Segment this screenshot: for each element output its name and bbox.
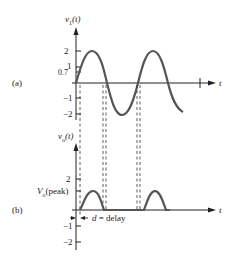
delay-marker	[70, 216, 88, 220]
y-arg: (t)	[65, 131, 74, 141]
tick-b-2: 2	[66, 174, 71, 184]
tick-a-neg1: −1	[63, 93, 73, 103]
panel-a-label: (a)	[12, 78, 22, 88]
panel-b-x-axis-label: t	[219, 205, 222, 215]
tick-b-neg1: −1	[63, 221, 73, 231]
tick-a-0.7: 0.7	[58, 68, 68, 78]
tick-b-neg2: −2	[63, 237, 73, 247]
panel-a-axes	[72, 27, 216, 120]
delay-label: d = delay	[92, 213, 126, 223]
tick-a-2: 2	[64, 46, 69, 56]
panel-a-y-axis-label: v1(t)	[65, 14, 81, 28]
tick-a-neg2: −2	[63, 109, 73, 119]
panel-b-label: (b)	[12, 205, 23, 215]
panel-b-axes	[72, 143, 216, 250]
peak-label: Vo(peak)	[37, 186, 68, 200]
output-half-wave	[80, 191, 170, 210]
delay-d: d	[92, 213, 97, 223]
delay-rest: = delay	[99, 213, 126, 223]
y-arg: (t)	[72, 14, 81, 24]
peak-rest: (peak)	[46, 186, 69, 196]
panel-b-y-axis-label: vo(t)	[58, 131, 74, 145]
panel-a-x-axis-label: t	[219, 78, 222, 88]
